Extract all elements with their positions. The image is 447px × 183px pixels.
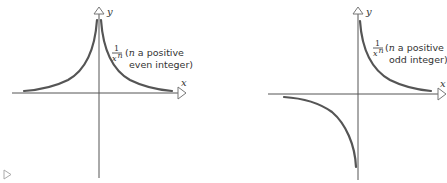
left-curve-left-branch [24, 20, 97, 91]
right-function-label: 1 x n [373, 39, 384, 58]
right-x-label: x [440, 78, 446, 89]
play-marker-icon [4, 170, 11, 179]
right-frac-exponent: n [379, 46, 384, 55]
right-frac-denominator: x [373, 49, 378, 58]
right-y-axis-arrow-icon [353, 7, 363, 14]
right-annotation-line1: (n a positive [385, 42, 444, 53]
right-curve-negative-branch [284, 97, 356, 167]
left-function-label: 1 x n [112, 44, 123, 63]
left-x-axis-arrow-icon [178, 87, 186, 99]
right-y-label: y [365, 6, 372, 17]
right-graph-odd: y x 1 x n (n a positive odd integer) [268, 6, 447, 180]
left-annotation-line1: (n a positive [125, 47, 184, 58]
left-frac-exponent: n [118, 51, 123, 60]
left-frac-denominator: x [112, 54, 117, 63]
right-x-axis-arrow-icon [438, 88, 446, 100]
right-annotation-line2: odd integer) [389, 54, 447, 65]
left-x-label: x [181, 77, 187, 88]
left-graph-even: y x 1 x n (n a positive even integer) [12, 6, 193, 178]
left-y-axis-arrow-icon [94, 7, 104, 14]
graphs-canvas: y x 1 x n (n a positive even integer) y … [0, 0, 447, 183]
left-annotation-line2: even integer) [129, 59, 193, 70]
left-y-label: y [106, 6, 113, 17]
